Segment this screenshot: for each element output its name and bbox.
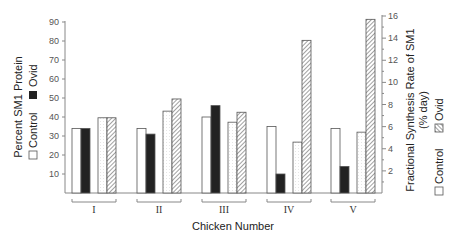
left-axis-ticks: 102030405060708090 [49, 17, 65, 179]
left-tick-label: 80 [49, 36, 59, 46]
legend-swatch-control-white [29, 151, 37, 159]
legend-swatch-ovid-hatched [435, 124, 443, 132]
bar-white-V [331, 128, 340, 193]
right-legend: Control Ovid [433, 98, 445, 195]
legend-label-ovid-right: Ovid [433, 98, 445, 121]
right-tick-label: 6 [388, 122, 393, 132]
bar-hatched-I [107, 118, 116, 193]
bar-white-II [137, 128, 146, 193]
x-tick-label: II [156, 204, 163, 215]
left-tick-label: 60 [49, 74, 59, 84]
bar-dotted-white-V [357, 132, 366, 193]
group-bracket [267, 199, 311, 202]
right-axis-subtitle-group: (% day) [417, 91, 429, 129]
bar-black-I [81, 128, 90, 193]
left-tick-label: 10 [49, 169, 59, 179]
group-bracket [202, 199, 246, 202]
group-brackets: IIIIIIIVV [72, 199, 375, 215]
bars [72, 19, 375, 193]
bar-hatched-IV [302, 40, 311, 193]
bar-dotted-white-I [98, 118, 107, 193]
bar-black-V [340, 166, 349, 193]
legend-swatch-ovid-black [29, 91, 37, 99]
left-tick-label: 70 [49, 55, 59, 65]
x-axis-title: Chicken Number [192, 220, 274, 232]
x-tick-label: I [92, 204, 95, 215]
group-bracket [72, 199, 116, 202]
bar-chart: 102030405060708090 246810121416 IIIIIIIV… [0, 0, 461, 242]
x-tick-label: III [219, 204, 229, 215]
left-legend: Control Ovid [27, 64, 39, 159]
bar-white-IV [267, 127, 276, 194]
bar-black-II [146, 134, 155, 193]
right-tick-label: 14 [388, 33, 398, 43]
right-tick-label: 10 [388, 77, 398, 87]
right-tick-label: 8 [388, 100, 393, 110]
legend-label-control: Control [27, 113, 39, 148]
right-tick-label: 2 [388, 166, 393, 176]
bar-dotted-white-IV [293, 142, 302, 193]
x-tick-label: V [349, 204, 357, 215]
right-axis-title-line2: (% day) [417, 91, 429, 129]
bar-white-I [72, 128, 81, 193]
legend-label-ovid: Ovid [27, 64, 39, 87]
right-tick-label: 16 [388, 11, 398, 21]
bar-hatched-III [237, 112, 246, 193]
group-bracket [137, 199, 181, 202]
bar-hatched-V [366, 19, 375, 193]
right-tick-label: 12 [388, 55, 398, 65]
left-tick-label: 20 [49, 150, 59, 160]
bar-hatched-II [172, 99, 181, 193]
right-axis-title-line1: Fractional Synthesis Rate of SM1 [404, 28, 416, 191]
group-bracket [331, 199, 375, 202]
right-tick-label: 4 [388, 144, 393, 154]
bar-dotted-white-III [228, 122, 237, 193]
bar-white-III [202, 117, 211, 193]
left-tick-label: 40 [49, 112, 59, 122]
left-axis-title: Percent SM1 Protein [12, 56, 24, 158]
legend-label-control-right: Control [433, 149, 445, 184]
left-tick-label: 90 [49, 17, 59, 27]
x-tick-label: IV [284, 204, 295, 215]
left-tick-label: 50 [49, 93, 59, 103]
left-axis-title-group: Percent SM1 Protein [12, 56, 24, 158]
right-axis-ticks: 246810121416 [382, 11, 398, 182]
legend-swatch-control-dotted [435, 187, 443, 195]
left-tick-label: 30 [49, 131, 59, 141]
bar-dotted-white-II [163, 111, 172, 193]
bar-black-III [211, 106, 220, 193]
bar-black-IV [276, 174, 285, 193]
right-axis-title-group: Fractional Synthesis Rate of SM1 [404, 28, 416, 191]
